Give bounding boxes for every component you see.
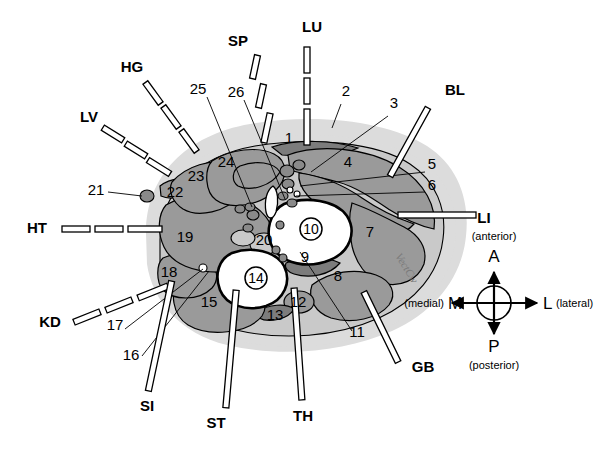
number-26: 26 [228, 83, 245, 100]
label-SP: SP [228, 32, 248, 49]
number-6: 6 [428, 176, 436, 193]
number-24: 24 [218, 153, 235, 170]
number-18: 18 [161, 263, 178, 280]
number-4: 4 [344, 153, 352, 170]
number-13: 13 [267, 306, 284, 323]
label-LV: LV [80, 108, 98, 125]
vessel-icon [245, 203, 255, 211]
structure-21-vessel [140, 190, 154, 202]
figure-canvas: VectCw LU SP HG LV HT KD SI ST TH GB LI … [0, 0, 616, 458]
structure-8-shape [311, 271, 393, 320]
label-LU: LU [302, 18, 322, 35]
vessel-icon [247, 210, 259, 220]
label-TH: TH [293, 407, 313, 424]
compass-lateral-abbr: L [543, 294, 552, 313]
label-ST: ST [206, 414, 225, 431]
leader-bar-HT [62, 226, 162, 232]
number-7: 7 [366, 223, 374, 240]
number-2: 2 [342, 82, 350, 99]
compass-posterior-word: (posterior) [469, 359, 519, 371]
number-22: 22 [167, 183, 184, 200]
vessel-icon [279, 254, 287, 262]
label-SI: SI [140, 397, 154, 414]
number-11: 11 [349, 323, 365, 340]
vessel-icon [243, 224, 253, 232]
compass-medial-abbr: M [448, 294, 462, 313]
compass-medial-word: (medial) [404, 297, 444, 309]
number-9: 9 [301, 248, 309, 265]
vessel-icon [276, 221, 284, 229]
number-21: 21 [88, 181, 105, 198]
label-HG: HG [121, 58, 144, 75]
leader-bar-LI [398, 212, 476, 218]
vessel-icon [280, 165, 294, 177]
vessel-icon [272, 246, 280, 254]
label-BL: BL [445, 81, 465, 98]
number-16: 16 [123, 346, 140, 363]
vessel-icon [235, 205, 245, 213]
number-17: 17 [107, 316, 124, 333]
number-3: 3 [390, 94, 398, 111]
number-12: 12 [290, 293, 307, 310]
number-1: 1 [285, 129, 293, 146]
compass-anterior-word: (anterior) [472, 230, 517, 242]
label-GB: GB [412, 358, 435, 375]
leader-bar-LU [304, 47, 310, 145]
compass-lateral-word: (lateral) [556, 297, 593, 309]
vessel-icon [287, 187, 293, 193]
number-20: 20 [256, 231, 273, 248]
compass-posterior-abbr: P [488, 337, 499, 356]
number-25: 25 [190, 80, 207, 97]
label-LI: LI [477, 209, 490, 226]
number-23: 23 [188, 167, 205, 184]
number-19: 19 [177, 228, 194, 245]
number-14: 14 [248, 270, 264, 286]
compass-anterior-abbr: A [488, 247, 500, 266]
number-5: 5 [428, 155, 436, 172]
vessel-icon [293, 160, 305, 170]
number-10: 10 [303, 221, 319, 237]
number-8: 8 [334, 267, 342, 284]
leader-bar-LV [101, 125, 171, 176]
label-KD: KD [39, 313, 61, 330]
leader-21 [108, 192, 142, 196]
number-15: 15 [201, 293, 218, 310]
anatomy-diagram: VectCw LU SP HG LV HT KD SI ST TH GB LI … [0, 0, 616, 458]
label-HT: HT [27, 219, 47, 236]
structure-20b-shape [231, 230, 255, 246]
vessel-icon [287, 199, 297, 207]
